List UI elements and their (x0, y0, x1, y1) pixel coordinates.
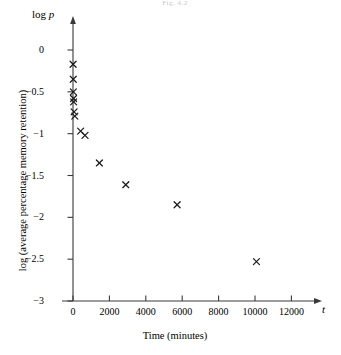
axes (62, 16, 322, 304)
y-axis-arrowhead (70, 16, 76, 24)
data-point-marker (82, 132, 88, 138)
data-point-marker (253, 259, 259, 265)
data-point-markers (70, 61, 259, 264)
data-point-marker (96, 160, 102, 166)
x-axis-ticks (73, 296, 291, 302)
data-point-marker (174, 202, 180, 208)
plot-area (0, 0, 341, 355)
data-point-marker (71, 99, 77, 105)
data-point-marker (123, 182, 129, 188)
x-axis-tick-label: 12000 (267, 307, 315, 317)
x-axis-tick-labels: 020004000600080001000012000 (0, 307, 341, 323)
x-axis-arrowhead (314, 298, 322, 304)
x-axis-variable-symbol: t (322, 303, 325, 315)
y-axis-ticks (68, 50, 74, 301)
x-axis-title: Time (minutes) (60, 330, 290, 341)
scatter-plot-figure: Fig. 4.2 log p log (average percentage m… (0, 0, 341, 355)
